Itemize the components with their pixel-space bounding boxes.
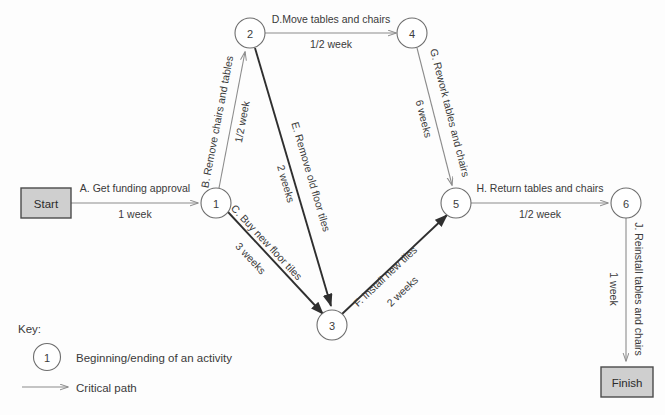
network-diagram-svg: A. Get funding approval 1 week B. Remove…	[0, 0, 665, 415]
node-5[interactable]: 5	[441, 188, 471, 218]
edge-B-name: B. Remove chairs and tables	[198, 55, 235, 189]
node-2-label: 2	[247, 28, 253, 40]
legend-arrow-meaning: Critical path	[76, 382, 137, 394]
node-6-label: 6	[623, 198, 629, 210]
edge-J-name: J. Reinstall tables and chairs	[633, 222, 645, 356]
node-5-label: 5	[453, 198, 459, 210]
edge-H: H. Return tables and chairs 1/2 week	[471, 182, 608, 220]
edge-H-duration: 1/2 week	[519, 208, 562, 220]
legend: Key: 1 Beginning/ending of an activity C…	[18, 323, 232, 394]
node-4-label: 4	[409, 28, 415, 40]
node-6[interactable]: 6	[611, 188, 641, 218]
terminal-start[interactable]: Start	[21, 188, 71, 218]
edge-B: B. Remove chairs and tables 1/2 week	[198, 52, 251, 189]
terminal-start-label: Start	[34, 198, 59, 210]
legend-node-symbol: 1	[34, 344, 61, 371]
terminal-finish-label: Finish	[612, 377, 643, 389]
edge-G: G. Rework tables and chairs 6 weeks	[414, 47, 473, 185]
edge-C: C. Buy new floor tiles 3 weeks	[228, 202, 323, 314]
terminal-finish[interactable]: Finish	[601, 367, 653, 397]
edge-D: D.Move tables and chairs 1/2 week	[265, 13, 396, 50]
edge-H-name: H. Return tables and chairs	[476, 182, 603, 194]
network-diagram-canvas: A. Get funding approval 1 week B. Remove…	[0, 0, 665, 415]
legend-node-meaning: Beginning/ending of an activity	[76, 352, 232, 364]
edge-D-duration: 1/2 week	[310, 38, 353, 50]
legend-title: Key:	[18, 323, 41, 335]
edge-J-duration: 1 week	[608, 272, 620, 306]
edge-D-name: D.Move tables and chairs	[272, 13, 390, 25]
edge-A-duration: 1 week	[118, 208, 152, 220]
edge-E-name: E. Remove old floor tiles	[289, 120, 333, 233]
edge-G-name: G. Rework tables and chairs	[428, 47, 472, 178]
edge-J: J. Reinstall tables and chairs 1 week	[608, 218, 645, 361]
edge-A-name: A. Get funding approval	[80, 182, 190, 194]
node-3[interactable]: 3	[317, 310, 347, 340]
node-3-label: 3	[329, 320, 335, 332]
legend-node-symbol-label: 1	[44, 352, 50, 364]
node-1[interactable]: 1	[201, 188, 231, 218]
node-1-label: 1	[213, 198, 219, 210]
edge-A: A. Get funding approval 1 week	[71, 182, 198, 220]
node-2[interactable]: 2	[235, 18, 265, 48]
node-4[interactable]: 4	[397, 18, 427, 48]
edge-F: F. Install new tiles 2 weeks	[342, 215, 447, 314]
